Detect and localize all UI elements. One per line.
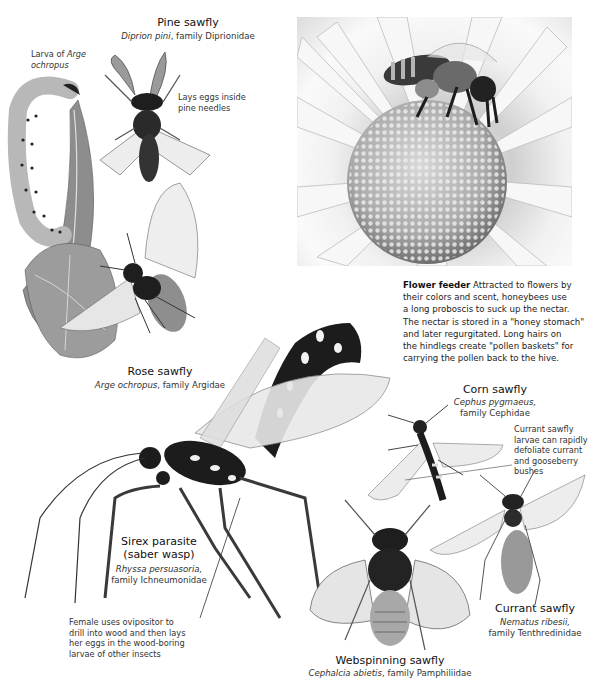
flower-feeder-caption: Flower feeder Attracted to flowers by th… bbox=[403, 279, 592, 364]
webspinning-sawfly-illustration bbox=[305, 500, 475, 660]
saber-wasp-scientific-name: Rhyssa persuasoria,family Ichneumonidae bbox=[94, 564, 224, 586]
honeybee-on-daisy-photo bbox=[297, 17, 572, 266]
rose-sawfly-illustration bbox=[55, 178, 205, 333]
flower-feeder-heading: Flower feeder bbox=[403, 280, 470, 290]
corn-sawfly-title: Corn sawfly bbox=[435, 383, 555, 396]
ovipositor-note: Female uses ovipositor to drill into woo… bbox=[69, 617, 209, 659]
webspinning-sawfly-title: Webspinning sawfly bbox=[320, 654, 460, 667]
currant-sawfly-note: Currant sawfly larvae can rapidly defoli… bbox=[514, 424, 589, 477]
pine-sawfly-scientific-name: Diprion pini, family Diprionidae bbox=[98, 31, 278, 42]
currant-sawfly-scientific-name: Nematus ribesii,family Tenthredinidae bbox=[475, 617, 592, 639]
daisy-illustration bbox=[297, 17, 572, 266]
pine-sawfly-title: Pine sawfly bbox=[118, 16, 258, 29]
saber-wasp-title: Sirex parasite(saber wasp) bbox=[104, 535, 214, 561]
currant-sawfly-title: Currant sawfly bbox=[480, 602, 590, 615]
webspinning-sawfly-scientific-name: Cephalcia abietis, family Pamphiliidae bbox=[300, 668, 480, 679]
